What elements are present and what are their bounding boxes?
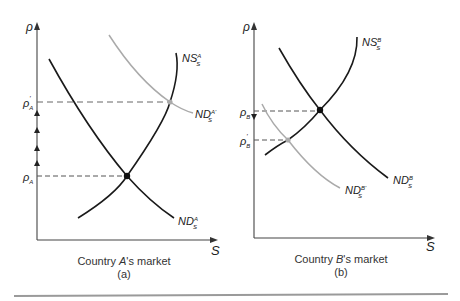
panel-a: ρ S ρA' ρA NSAS ND <box>22 20 220 280</box>
price-fall-arrow-b <box>251 114 257 120</box>
price-prime-label-a: ρA' <box>22 95 33 111</box>
supply-curve-a <box>78 53 177 218</box>
x-axis-label-a: S <box>211 243 220 258</box>
bottom-rule <box>14 294 448 296</box>
sublabel-a: (a) <box>117 268 130 280</box>
demand-label-b: NDBS <box>393 174 413 189</box>
shifted-demand-curve-a <box>109 35 193 113</box>
supply-label-a: NSAS <box>182 52 201 67</box>
supply-label-b: NSBS <box>362 36 381 51</box>
sublabel-b: (b) <box>334 266 347 278</box>
price-label-a: ρA <box>22 171 33 185</box>
new-equilibrium-point-a <box>167 99 172 104</box>
demand-label-a: NDAS <box>178 215 198 230</box>
shifted-demand-label-a: NDA'S <box>195 108 217 123</box>
y-axis-label-b: ρ <box>242 20 250 34</box>
diagram-canvas: ρ S ρA' ρA NSAS ND <box>0 0 460 301</box>
demand-curve-b <box>279 48 388 178</box>
caption-a: Country A's market <box>77 255 170 267</box>
new-equilibrium-point-b <box>285 137 290 142</box>
equilibrium-point-b <box>317 107 323 113</box>
panel-b: ρ S ρB ρB' NSBS NDBS NDB'S <box>239 20 435 278</box>
price-prime-label-b: ρB' <box>239 133 250 149</box>
shifted-demand-label-b: NDB'S <box>345 184 367 199</box>
x-axis-label-b: S <box>426 239 435 254</box>
equilibrium-point-a <box>124 173 130 179</box>
price-label-b: ρB <box>239 106 250 120</box>
y-axis-label-a: ρ <box>25 20 33 34</box>
caption-b: Country B's market <box>294 253 387 265</box>
shifted-demand-curve-b <box>262 104 340 188</box>
